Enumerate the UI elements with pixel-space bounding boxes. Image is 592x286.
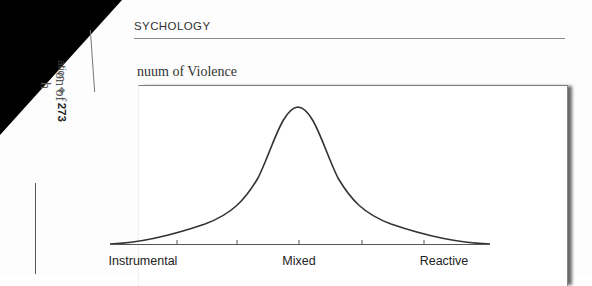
bell-curve [110, 107, 490, 244]
axis-label-reactive: Reactive [420, 254, 469, 268]
axis-label-mixed: Mixed [282, 254, 315, 268]
axis-label-instrumental: Instrumental [109, 254, 178, 268]
